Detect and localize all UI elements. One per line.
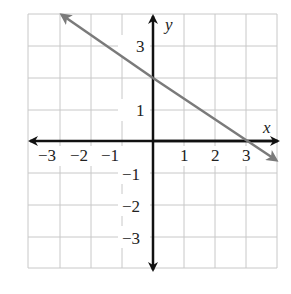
- y-tick-3: 3: [136, 37, 145, 56]
- x-tick-neg1: −1: [101, 146, 119, 165]
- coordinate-plane: x y −3 −2 −1 1 2 3 3 1 −1 −2 −3: [0, 0, 291, 294]
- y-tick-neg3: −3: [122, 229, 140, 248]
- y-tick-1: 1: [136, 101, 145, 120]
- x-tick-2: 2: [211, 146, 220, 165]
- y-tick-neg1: −1: [122, 165, 140, 184]
- x-tick-neg2: −2: [70, 146, 88, 165]
- y-tick-neg2: −2: [122, 197, 140, 216]
- x-tick-neg3: −3: [38, 146, 56, 165]
- x-tick-3: 3: [242, 146, 251, 165]
- y-axis-label: y: [163, 15, 173, 34]
- x-axis-label: x: [262, 118, 271, 137]
- x-tick-1: 1: [180, 146, 189, 165]
